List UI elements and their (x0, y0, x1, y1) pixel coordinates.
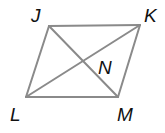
segment-jk (49, 25, 140, 26)
diagonal-lk (26, 25, 140, 97)
label-j: J (30, 5, 41, 26)
label-k: K (144, 5, 158, 26)
label-n: N (98, 57, 112, 78)
parallelogram-diagonals (26, 25, 140, 97)
diagram-canvas: JKLMN (0, 0, 165, 133)
vertex-labels: JKLMN (10, 5, 158, 125)
label-l: L (10, 104, 21, 125)
segment-lj (26, 26, 49, 97)
parallelogram-diagram: JKLMN (0, 0, 165, 133)
label-m: M (117, 104, 133, 125)
